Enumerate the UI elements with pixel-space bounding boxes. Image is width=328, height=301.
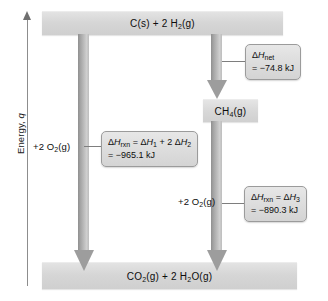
arrow-head-icon — [207, 250, 227, 271]
down-arrow-combustion-of-elements — [78, 34, 89, 272]
callout-delta-h-rxn-sum: ΔHrxn = ΔH1 + 2 ΔH2 = −965.1 kJ — [101, 131, 198, 167]
reagent-label-left: +2 O2(g) — [33, 141, 70, 152]
callout-rxn3-line2: = −890.3 kJ — [251, 204, 300, 217]
leader-line-rxn-sum — [84, 146, 102, 147]
leader-line-net — [222, 61, 246, 62]
callout-rxn3-line1: ΔHrxn = ΔH3 — [251, 191, 300, 204]
callout-rxn-sum-line1: ΔHrxn = ΔH1 + 2 ΔH2 — [108, 136, 191, 149]
reagent-label-right: +2 O2(g) — [178, 196, 215, 207]
arrow-head-icon — [74, 250, 94, 271]
energy-level-methane: CH4(g) — [203, 99, 258, 122]
energy-axis-line — [27, 18, 28, 286]
callout-net-line1: ΔHnet — [252, 49, 294, 62]
callout-rxn-sum-line2: = −965.1 kJ — [108, 149, 191, 162]
down-arrow-formation-of-methane — [211, 34, 222, 100]
leader-line-rxn3 — [222, 203, 245, 204]
energy-level-methane-label: CH4(g) — [215, 106, 247, 117]
energy-axis-arrowhead-icon — [23, 11, 31, 20]
energy-axis-label-text: Energy, — [15, 121, 26, 154]
energy-level-reactants: C(s) + 2 H2(g) — [42, 11, 283, 35]
callout-delta-h-rxn3: ΔHrxn = ΔH3 = −890.3 kJ — [244, 186, 307, 222]
energy-level-products-label: CO2(g) + 2 H2O(g) — [127, 271, 212, 282]
energy-level-diagram: Energy, q C(s) + 2 H2(g) CH4(g) CO2(g) +… — [0, 0, 328, 301]
energy-axis-label: Energy, q — [15, 82, 26, 186]
energy-level-reactants-label: C(s) + 2 H2(g) — [130, 18, 195, 29]
arrow-head-icon — [207, 80, 227, 99]
arrow-shaft — [211, 34, 222, 82]
callout-delta-h-net: ΔHnet = −74.8 kJ — [245, 44, 301, 80]
energy-axis-label-variable: q — [15, 113, 26, 118]
arrow-shaft — [78, 34, 89, 252]
callout-net-line2: = −74.8 kJ — [252, 62, 294, 75]
arrow-shaft — [211, 121, 222, 252]
